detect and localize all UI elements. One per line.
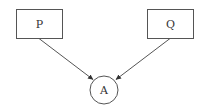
- node-p-label: P: [36, 18, 44, 31]
- diagram-canvas: P Q A: [0, 0, 207, 111]
- node-a-label: A: [99, 84, 109, 97]
- node-q-label: Q: [166, 18, 175, 31]
- edge-q-to-a-arrow: [116, 39, 170, 80]
- node-p: P: [17, 10, 63, 39]
- edge-p-to-a-arrow: [39, 39, 93, 80]
- node-a: A: [90, 76, 118, 104]
- node-q: Q: [148, 10, 194, 39]
